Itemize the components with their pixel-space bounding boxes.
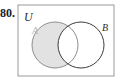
set-b-label: B xyxy=(102,22,108,33)
set-a-label: A xyxy=(31,25,39,36)
venn-diagram-figure: 80. U A B xyxy=(0,0,120,81)
problem-number-label: 80. xyxy=(0,7,15,20)
venn-diagram-canvas: U A B xyxy=(17,4,115,77)
venn-diagram-svg: U A B xyxy=(17,4,115,77)
universe-label: U xyxy=(24,10,34,24)
